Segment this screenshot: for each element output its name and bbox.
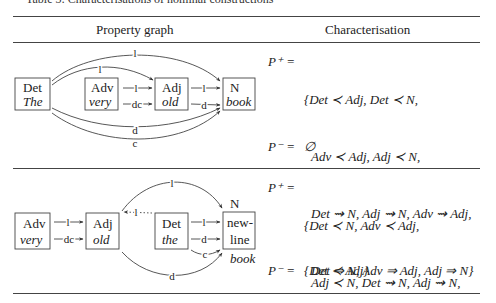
edge-label: l	[202, 216, 205, 228]
edge-label: l	[133, 47, 136, 59]
p-minus-label-1: P⁻ =	[268, 137, 295, 156]
edge-label: d	[201, 233, 207, 245]
p-plus-label-1: P⁺ =	[268, 52, 295, 71]
node-n-word: book	[226, 94, 252, 109]
p-minus-label-2: P⁻ =	[268, 261, 295, 280]
edge-label: c	[203, 248, 208, 260]
top-rule	[13, 16, 480, 17]
node-det-cat: Det	[23, 80, 42, 95]
p-minus-set-1: ∅	[304, 137, 315, 156]
property-graph-1: Det The Adv very Adj old N book l l l dc…	[0, 43, 260, 168]
header-characterisation: Characterisation	[325, 22, 410, 38]
node-n-cat: N	[230, 80, 240, 95]
node-det-word: the	[162, 232, 178, 247]
node-n-word-line1: new-	[227, 215, 253, 230]
edge-label: l	[170, 177, 173, 189]
p-plus-line: {Det ≺ N, Adv ≺ Adj,	[304, 216, 460, 235]
node-adv-word: very	[89, 94, 112, 109]
node-n-extra: book	[230, 251, 256, 266]
node-adj-cat: Adj	[93, 216, 113, 231]
p-plus-line: {Det ≺ Adj, Det ≺ N,	[304, 90, 473, 109]
node-adv-cat: Adv	[91, 80, 114, 95]
p-plus-line: Adv ≺ Adj, Adj ≺ N,	[304, 147, 473, 166]
header-property-graph: Property graph	[96, 22, 174, 38]
p-plus-label-2: P⁺ =	[268, 178, 295, 197]
edge-label: c	[133, 137, 138, 149]
edge-label: dc	[132, 98, 143, 110]
edge-label: l	[202, 82, 205, 94]
node-n-word-line2: line	[230, 232, 250, 247]
node-det-cat: Det	[162, 216, 181, 231]
edge-label: l	[134, 82, 137, 94]
edge-label: d	[169, 270, 175, 282]
p-plus-set-2: {Det ≺ N, Adv ≺ Adj, Adj ≺ N, Det ⇝ N, A…	[304, 178, 460, 303]
edge-label: d	[132, 124, 138, 136]
p-minus-set-2: {Det ≺ Adj}	[304, 261, 369, 280]
node-adj-word: old	[162, 94, 179, 109]
node-adj-cat: Adj	[162, 80, 182, 95]
node-det-word: The	[23, 94, 43, 109]
edge-label: l	[66, 216, 69, 228]
node-adj-word: old	[93, 232, 110, 247]
edge-label: dc	[64, 233, 75, 245]
table-caption: Table 3: Characterisations of nominal co…	[26, 0, 273, 7]
node-n-cat: N	[230, 196, 240, 211]
property-graph-2: Adv very Adj old Det the N new- line boo…	[0, 168, 260, 293]
node-adv-cat: Adv	[23, 216, 46, 231]
edge-label: l	[98, 63, 101, 75]
edge-label: l	[134, 206, 137, 218]
node-adv-word: very	[20, 232, 43, 247]
edge-label: d	[201, 99, 207, 111]
